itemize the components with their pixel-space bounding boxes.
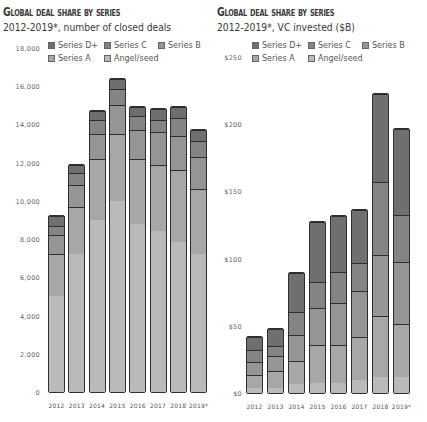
bar-segment-series-a	[310, 345, 325, 382]
bar-segment-angel-seed	[268, 388, 283, 393]
bar-segment-angel-seed	[191, 254, 206, 392]
x-tick-label: 2014	[87, 402, 107, 409]
chart-subtitle: 2012-2019*, number of closed deals	[3, 22, 171, 33]
bar-segment-series-c	[90, 120, 105, 134]
x-tick-label: 2015	[107, 402, 127, 409]
y-tick-label: $50	[218, 323, 242, 331]
y-tick-label: 14,000	[4, 121, 40, 129]
bar-segment-series-a	[373, 316, 388, 378]
y-tick-label: $100	[218, 256, 242, 264]
bar-segment-series-d-	[151, 109, 166, 119]
legend-label: Series D+	[262, 41, 302, 50]
y-tick-label: 0	[4, 389, 40, 397]
y-tick-label: 6,000	[4, 274, 40, 282]
bar-segment-series-c	[394, 215, 409, 262]
stacked-bar-2018	[372, 93, 389, 394]
bar-segment-series-b	[331, 303, 346, 346]
y-tick-label: 4,000	[4, 313, 40, 321]
y-tick-label: $200	[218, 121, 242, 129]
bar-segment-series-c	[373, 182, 388, 255]
x-tick-label: 2015	[308, 403, 328, 410]
y-tick-label: 12,000	[4, 160, 40, 168]
bar-segment-angel-seed	[331, 383, 346, 393]
bar-segment-angel-seed	[151, 231, 166, 392]
y-tick-label: $0	[218, 390, 242, 398]
x-tick-label: 2013	[266, 403, 286, 410]
bar-segment-series-a	[130, 159, 145, 224]
bar-segment-series-a	[49, 254, 64, 296]
stacked-bar-2019	[190, 129, 207, 393]
stacked-bar-2015	[109, 78, 126, 393]
bar-segment-series-d-	[130, 107, 145, 115]
legend-item: Series C	[308, 41, 351, 50]
x-tick-label: 2012	[245, 403, 265, 410]
y-tick-label: 8,000	[4, 236, 40, 244]
bar-segment-series-b	[130, 130, 145, 159]
bar-segment-series-d-	[191, 130, 206, 140]
stacked-bar-2013	[68, 164, 85, 393]
legend-swatch	[48, 42, 55, 49]
bar-segment-series-b	[151, 132, 166, 165]
bar-segment-angel-seed	[352, 380, 367, 393]
bar-segment-series-a	[191, 189, 206, 254]
bar-segment-angel-seed	[310, 383, 325, 393]
bar-segment-series-b	[171, 136, 186, 171]
bar-segment-series-a	[289, 361, 304, 384]
bar-segment-series-b	[69, 185, 84, 206]
bar-segment-series-c	[171, 118, 186, 136]
bar-segment-series-c	[289, 312, 304, 335]
y-tick-label: 2,000	[4, 351, 40, 359]
x-tick-label: 2017	[148, 402, 168, 409]
legend-swatch	[308, 42, 315, 49]
bar-segment-angel-seed	[171, 242, 186, 392]
bar-segment-series-d-	[352, 210, 367, 263]
bar-segment-angel-seed	[394, 377, 409, 393]
x-tick-label: 2012	[47, 402, 67, 409]
x-tick-label: 2019*	[392, 403, 412, 410]
x-tick-label: 2019*	[189, 402, 209, 409]
stacked-bar-2017	[351, 209, 368, 394]
stacked-bar-2013	[267, 328, 284, 394]
bar-segment-series-a	[268, 371, 283, 388]
legend-item: Series B	[362, 41, 405, 50]
bar-segment-series-d-	[394, 129, 409, 215]
bar-segment-angel-seed	[130, 224, 145, 392]
bar-segment-series-d-	[331, 216, 346, 272]
legend-swatch	[158, 42, 165, 49]
bar-segment-series-b	[191, 157, 206, 190]
stacked-bar-2016	[129, 106, 146, 393]
bar-segment-series-d-	[49, 216, 64, 225]
plot-area	[246, 58, 414, 394]
bar-segment-series-a	[110, 134, 125, 201]
vc-invested-chart-panel: Global deal share by series 2012-2019*, …	[214, 0, 427, 422]
bar-segment-series-c	[151, 120, 166, 132]
bar-segment-series-c	[130, 116, 145, 130]
y-tick-label: $250	[218, 54, 242, 62]
stacked-bar-2019	[393, 128, 410, 394]
bar-segment-series-d-	[247, 337, 262, 350]
bar-segment-angel-seed	[49, 296, 64, 392]
bar-segment-angel-seed	[69, 254, 84, 392]
stacked-bar-2017	[150, 108, 167, 393]
bar-segment-series-c	[310, 282, 325, 308]
chart-subtitle: 2012-2019*, VC invested ($B)	[217, 22, 355, 33]
y-tick-label: 16,000	[4, 83, 40, 91]
bar-segment-series-d-	[373, 94, 388, 182]
x-tick-label: 2018	[371, 403, 391, 410]
x-tick-label: 2016	[329, 403, 349, 410]
stacked-bar-2014	[89, 110, 106, 393]
bar-segment-series-d-	[310, 222, 325, 283]
stacked-bar-2018	[170, 106, 187, 393]
bar-segment-series-c	[268, 346, 283, 356]
x-tick-label: 2017	[350, 403, 370, 410]
stacked-bar-2016	[330, 215, 347, 394]
legend-swatch	[104, 42, 111, 49]
bar-segment-series-b	[394, 262, 409, 323]
stacked-bar-2015	[309, 221, 326, 394]
bar-segment-angel-seed	[247, 388, 262, 393]
bar-segment-series-c	[247, 350, 262, 362]
deal-count-chart-panel: Global deal share by series 2012-2019*, …	[0, 0, 214, 422]
bar-segment-angel-seed	[373, 377, 388, 393]
bar-segment-series-b	[247, 362, 262, 375]
bar-segment-series-d-	[90, 111, 105, 119]
